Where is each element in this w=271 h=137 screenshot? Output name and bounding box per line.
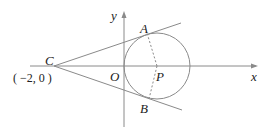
point-a-label: A <box>139 21 148 36</box>
point-c-label: C <box>45 53 54 68</box>
tangent-line-ca <box>54 23 181 66</box>
y-axis-label: y <box>109 8 117 23</box>
point-b-label: B <box>140 101 148 116</box>
geometry-diagram: y x O A B P C ( −2, 0 ) <box>0 0 271 137</box>
point-p-label: P <box>155 69 164 84</box>
x-axis-label: x <box>250 69 257 84</box>
y-axis-arrow-icon <box>122 11 127 18</box>
radius-pa <box>147 33 157 66</box>
x-axis-arrow-icon <box>251 64 258 69</box>
point-c-coordinates: ( −2, 0 ) <box>13 71 52 85</box>
origin-label: O <box>110 69 120 84</box>
